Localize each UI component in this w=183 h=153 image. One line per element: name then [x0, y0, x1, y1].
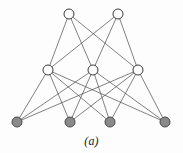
graph-edge [69, 14, 93, 70]
figure-container: (a) [0, 0, 183, 153]
graph-edge [17, 70, 138, 122]
graph-edge [93, 70, 110, 122]
graph-node-t1 [64, 9, 74, 19]
graph-edge [93, 14, 118, 70]
graph-node-m1 [43, 65, 53, 75]
graph-edge [48, 70, 70, 122]
graph-edge [138, 70, 165, 122]
graph-edge [48, 70, 165, 122]
graph-node-b1 [12, 117, 22, 127]
graph-node-b2 [65, 117, 75, 127]
graph-node-b3 [105, 117, 115, 127]
figure-caption: (a) [0, 133, 183, 149]
graph-node-m2 [88, 65, 98, 75]
graph-node-b4 [160, 117, 170, 127]
graph-node-t2 [113, 9, 123, 19]
graph-edge [48, 70, 110, 122]
graph-edge [17, 70, 48, 122]
graph-edge [110, 70, 138, 122]
graph-node-m3 [133, 65, 143, 75]
graph-diagram [0, 0, 183, 153]
